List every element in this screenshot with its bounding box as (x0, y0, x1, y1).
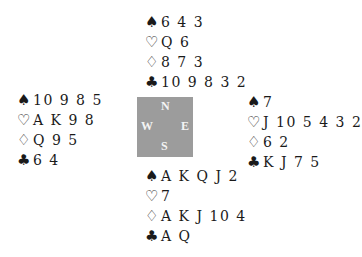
card-ranks: A K J 10 4 (161, 206, 247, 226)
diamond-icon: ♢ (145, 206, 161, 226)
diamond-icon: ♢ (145, 52, 161, 72)
card-ranks: Q 9 5 (33, 130, 79, 150)
card-ranks: 7 (263, 92, 273, 112)
west-spades: ♠10 9 8 5 (17, 90, 103, 110)
spade-icon: ♠ (17, 90, 33, 110)
club-icon: ♣ (145, 72, 161, 92)
heart-icon: ♡ (145, 186, 161, 206)
card-ranks: 6 4 3 (161, 12, 204, 32)
south-clubs: ♣A Q (145, 226, 247, 246)
club-icon: ♣ (247, 152, 263, 172)
east-clubs: ♣K J 7 5 (247, 152, 362, 172)
club-icon: ♣ (145, 226, 161, 246)
north-spades: ♠6 4 3 (145, 12, 247, 32)
card-ranks: J 10 5 4 3 2 (263, 112, 362, 132)
card-ranks: A K Q J 2 (161, 166, 239, 186)
card-ranks: 7 (161, 186, 171, 206)
east-hand: ♠7 ♡J 10 5 4 3 2 ♢6 2 ♣K J 7 5 (247, 92, 362, 172)
card-ranks: A Q (161, 226, 192, 246)
card-ranks: Q 6 (161, 32, 190, 52)
spade-icon: ♠ (145, 166, 161, 186)
compass-north-label: N (161, 99, 170, 114)
west-clubs: ♣6 4 (17, 150, 103, 170)
card-ranks: 6 4 (33, 150, 60, 170)
north-hand: ♠6 4 3 ♡Q 6 ♢8 7 3 ♣10 9 8 3 2 (145, 12, 247, 92)
compass-south-label: S (161, 139, 168, 154)
card-ranks: A K 9 8 (33, 110, 95, 130)
diamond-icon: ♢ (17, 130, 33, 150)
heart-icon: ♡ (247, 112, 263, 132)
card-ranks: 6 2 (263, 132, 290, 152)
north-diamonds: ♢8 7 3 (145, 52, 247, 72)
east-spades: ♠7 (247, 92, 362, 112)
compass-west-label: W (141, 119, 153, 134)
west-hand: ♠10 9 8 5 ♡A K 9 8 ♢Q 9 5 ♣6 4 (17, 90, 103, 170)
spade-icon: ♠ (247, 92, 263, 112)
heart-icon: ♡ (17, 110, 33, 130)
club-icon: ♣ (17, 150, 33, 170)
heart-icon: ♡ (145, 32, 161, 52)
west-diamonds: ♢Q 9 5 (17, 130, 103, 150)
east-hearts: ♡J 10 5 4 3 2 (247, 112, 362, 132)
west-hearts: ♡A K 9 8 (17, 110, 103, 130)
compass-east-label: E (181, 119, 189, 134)
card-ranks: 8 7 3 (161, 52, 204, 72)
north-clubs: ♣10 9 8 3 2 (145, 72, 247, 92)
diamond-icon: ♢ (247, 132, 263, 152)
east-diamonds: ♢6 2 (247, 132, 362, 152)
card-ranks: 10 9 8 5 (33, 90, 103, 110)
south-hand: ♠A K Q J 2 ♡7 ♢A K J 10 4 ♣A Q (145, 166, 247, 246)
spade-icon: ♠ (145, 12, 161, 32)
north-hearts: ♡Q 6 (145, 32, 247, 52)
card-ranks: 10 9 8 3 2 (161, 72, 247, 92)
compass-table: N W E S (137, 97, 193, 157)
south-spades: ♠A K Q J 2 (145, 166, 247, 186)
south-diamonds: ♢A K J 10 4 (145, 206, 247, 226)
card-ranks: K J 7 5 (263, 152, 321, 172)
south-hearts: ♡7 (145, 186, 247, 206)
